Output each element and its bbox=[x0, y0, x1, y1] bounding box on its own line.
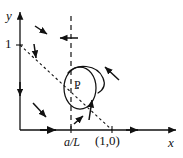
y-axis-label: y bbox=[6, 9, 12, 22]
phase-portrait-canvas bbox=[0, 0, 183, 158]
x-tick-label-one-zero: (1,0) bbox=[95, 134, 120, 147]
x-tick-label-a-over-L: a/L bbox=[64, 136, 80, 148]
arrow-on-diagonal-upper-down bbox=[34, 44, 36, 58]
arrow-lower-left-down-right bbox=[33, 103, 46, 117]
arrow-upper-right-down-left bbox=[105, 67, 119, 80]
arrow-lower-mid-up-right bbox=[74, 116, 83, 124]
diagonal-nullcline bbox=[20, 45, 112, 130]
nullclines-group bbox=[20, 16, 112, 130]
equilibrium-point-label-P: P bbox=[74, 79, 81, 91]
phase-portrait-figure: y x 1 a/L (1,0) P bbox=[0, 0, 183, 158]
arrow-upper-left-down-right bbox=[35, 26, 47, 34]
y-tick-label-one: 1 bbox=[5, 37, 12, 50]
x-axis-label: x bbox=[168, 136, 174, 149]
